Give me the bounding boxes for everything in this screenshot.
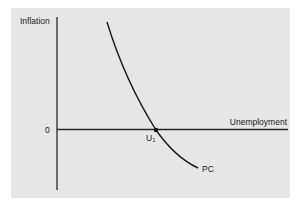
u1-label: U1 <box>146 133 156 143</box>
phillips-curve-chart: Inflation 0 Unemployment U1 PC <box>0 0 306 207</box>
x-axis-label: Unemployment <box>230 117 288 127</box>
y-axis-label: Inflation <box>20 16 50 26</box>
zero-tick-label: 0 <box>45 125 50 135</box>
pc-curve-label: PC <box>202 164 214 174</box>
u1-point <box>154 128 158 132</box>
phillips-curve <box>107 22 198 168</box>
